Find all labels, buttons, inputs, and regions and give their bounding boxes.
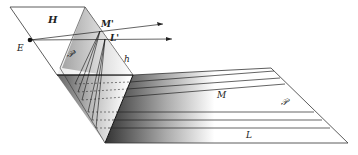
label-M: M	[216, 90, 227, 100]
ground-plane	[105, 68, 348, 143]
label-E: E	[16, 43, 24, 53]
label-L: L	[245, 130, 252, 140]
label-h: h	[124, 54, 130, 64]
label-H: H	[47, 14, 58, 25]
label-M-prime: M'	[100, 19, 114, 29]
arrow-head-M	[157, 22, 163, 26]
label-P-prime: 𝒫'	[67, 49, 76, 59]
eye-point	[28, 38, 33, 43]
label-L-prime: L'	[109, 33, 119, 43]
arrow-head-L	[166, 37, 172, 41]
diagram-canvas: H E M' L' 𝒫' h M 𝒫 L	[0, 0, 358, 155]
perspective-diagram: H E M' L' 𝒫' h M 𝒫 L	[0, 0, 358, 155]
